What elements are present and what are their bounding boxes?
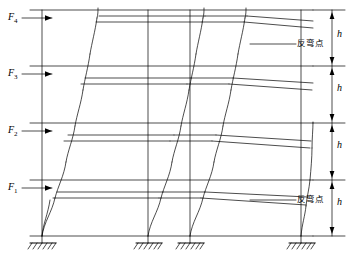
deformed-column-a-4 bbox=[75, 90, 83, 126]
deformed-column-b-3 bbox=[172, 126, 181, 162]
deformed-column-c-1 bbox=[190, 198, 203, 236]
force-label-f4: F4 bbox=[8, 11, 18, 25]
height-label-h3: h bbox=[337, 82, 342, 93]
deformed-column-d-3 bbox=[310, 148, 312, 180]
deformed-beam-4-cd bbox=[247, 16, 313, 21]
force-label-f2: F2 bbox=[8, 124, 18, 138]
deformed-beam-1b-cd bbox=[201, 198, 306, 205]
deformed-column-a-6 bbox=[90, 18, 97, 54]
deformed-column-c-4 bbox=[223, 90, 231, 126]
deformed-column-a-5 bbox=[83, 54, 90, 90]
deformed-column-b-1 bbox=[148, 198, 161, 236]
support-d bbox=[287, 236, 315, 249]
deformed-beam-2b-cd bbox=[212, 141, 310, 148]
deformed-column-b-6 bbox=[196, 18, 203, 54]
deformed-column-b-7 bbox=[203, 8, 204, 18]
deformed-column-d-1 bbox=[301, 206, 306, 236]
deformed-beam-4b-cd bbox=[244, 22, 313, 28]
height-label-h4: h bbox=[337, 28, 342, 39]
force-arrow-f4 bbox=[22, 15, 52, 21]
deformed-column-d-4 bbox=[312, 122, 313, 148]
annotation-inflection-top: 反弯点 bbox=[297, 36, 324, 48]
force-arrow-f2 bbox=[22, 128, 52, 134]
force-label-f1: F1 bbox=[8, 181, 18, 195]
force-label-f3: F3 bbox=[8, 67, 18, 81]
annotation-inflection-bottom: 反弯点 bbox=[297, 192, 324, 204]
force-arrow-f3 bbox=[22, 71, 52, 77]
deformed-column-c-3 bbox=[214, 126, 223, 162]
deformed-column-a-7 bbox=[97, 8, 98, 18]
support-c bbox=[176, 236, 204, 249]
height-label-h1: h bbox=[337, 196, 342, 207]
support-a bbox=[28, 236, 56, 249]
deformed-beam-1-cd bbox=[205, 192, 308, 197]
force-arrow-f1 bbox=[22, 185, 52, 191]
deformed-column-a-1 bbox=[42, 198, 55, 236]
deformed-beam-3b-cd bbox=[229, 84, 312, 90]
deformed-beam-2-cd bbox=[216, 135, 311, 141]
height-label-h2: h bbox=[337, 139, 342, 150]
deformed-column-c-7 bbox=[245, 8, 246, 18]
deformed-column-a-3 bbox=[66, 126, 75, 162]
deformed-column-b-4 bbox=[181, 90, 189, 126]
support-b bbox=[134, 236, 162, 249]
deformed-column-c-6 bbox=[238, 18, 245, 54]
